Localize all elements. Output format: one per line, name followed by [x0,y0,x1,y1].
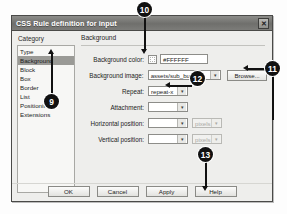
repeat-label: Repeat: [81,88,148,95]
vertical-position-dropdown[interactable]: ▾ [148,134,188,144]
horizontal-position-unit-dropdown[interactable]: pixels ▾ [192,118,222,128]
callout-marker-13: 13 [198,147,213,162]
category-item-box[interactable]: Box [18,74,74,83]
callout-marker-11: 11 [265,61,280,76]
callout-9-line [51,54,53,96]
background-color-input[interactable]: #FFFFFF [160,54,208,64]
horizontal-position-unit-value: pixels [195,120,211,127]
vertical-position-row: Vertical position: ▾ pixels ▾ [81,131,267,147]
category-item-border[interactable]: Border [18,83,74,92]
attachment-dropdown[interactable]: ▾ [148,102,188,112]
dialog-title: CSS Rule definition for input [16,19,117,28]
callout-12-arrowhead [165,82,170,88]
callout-10-arrowhead [141,49,147,54]
horizontal-position-dropdown[interactable]: ▾ [148,118,188,128]
chevron-down-icon[interactable]: ▾ [177,135,186,143]
callout-9-arrowhead [48,49,54,54]
category-item-type[interactable]: Type [18,47,74,56]
category-header: Category [18,35,44,42]
category-list[interactable]: Type Background Block Box Border List Po… [17,45,75,193]
background-image-row: Background image: assets/sub_butt.jpg ▾ … [81,67,267,83]
screenshot-root: CSS Rule definition for input ✕ Category… [0,0,287,214]
callout-13-arrowhead [202,186,208,191]
panel-heading: Background [81,34,116,41]
panel-divider [81,45,265,46]
callout-11-arrowhead [243,65,248,71]
background-properties-form: Background color: #FFFFFF Background ima… [81,51,267,147]
category-item-background[interactable]: Background [18,56,74,65]
browse-button[interactable]: Browse... [227,70,267,81]
background-color-row: Background color: #FFFFFF [81,51,267,67]
chevron-down-icon[interactable]: ▾ [211,119,220,127]
color-swatch-icon[interactable] [148,55,157,64]
category-item-extensions[interactable]: Extensions [18,110,74,119]
background-color-label: Background color: [81,56,148,63]
background-image-input[interactable]: assets/sub_butt.jpg ▾ [148,70,222,80]
callout-10-line [144,16,146,51]
chevron-down-icon[interactable]: ▾ [211,135,220,143]
vertical-position-unit-value: pixels [195,136,211,143]
dialog-titlebar[interactable]: CSS Rule definition for input ✕ [12,16,272,31]
vertical-position-label: Vertical position: [81,136,148,143]
callout-marker-10: 10 [137,2,152,17]
chevron-down-icon[interactable]: ▾ [177,87,186,95]
attachment-label: Attachment: [81,104,148,111]
repeat-dropdown[interactable]: repeat-x ▾ [148,86,188,96]
footer-divider [12,183,272,184]
chevron-down-icon[interactable]: ▾ [210,71,219,79]
apply-button[interactable]: Apply [146,186,188,198]
attachment-row: Attachment: ▾ [81,99,267,115]
chevron-down-icon[interactable]: ▾ [177,103,186,111]
callout-12-line [170,85,192,87]
horizontal-position-label: Horizontal position: [81,120,148,127]
ok-button[interactable]: OK [48,186,90,198]
callout-13-line [205,160,207,188]
callout-marker-12: 12 [190,71,205,86]
category-item-block[interactable]: Block [18,65,74,74]
vertical-position-unit-dropdown[interactable]: pixels ▾ [192,134,222,144]
close-icon[interactable]: ✕ [258,18,269,29]
cancel-button[interactable]: Cancel [97,186,139,198]
dialog-footer: OK Cancel Apply Help [12,186,272,198]
background-image-label: Background image: [81,72,148,79]
callout-marker-9: 9 [44,94,59,109]
horizontal-position-row: Horizontal position: ▾ pixels ▾ [81,115,267,131]
chevron-down-icon[interactable]: ▾ [177,119,186,127]
repeat-value: repeat-x [151,88,173,95]
